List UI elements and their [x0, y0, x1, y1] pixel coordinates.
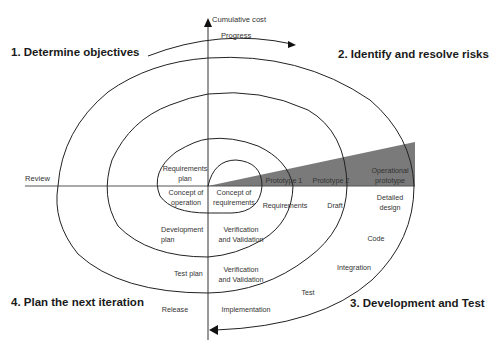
draft-label: Draft	[322, 201, 348, 211]
progress-arc	[148, 38, 292, 56]
integration-label: Integration	[334, 263, 374, 273]
quadrant-4-title: 4. Plan the next iteration	[11, 296, 144, 308]
requirements-label: Requirements	[262, 201, 308, 211]
progress-arrowhead-icon	[288, 41, 296, 48]
quadrant-1-title: 1. Determine objectives	[11, 46, 139, 58]
cumulative-cost-arrowhead-icon	[204, 18, 212, 27]
concept-of-requirements-label: Concept of requirements	[209, 188, 259, 207]
implementation-label: Implementation	[218, 305, 274, 315]
progress-label: Progress	[221, 31, 251, 40]
verification-validation-2-label: Verification and Validation	[213, 265, 269, 284]
prototype-2-label: Prototype 2	[310, 176, 352, 186]
code-label: Code	[362, 234, 390, 244]
development-plan-label: Development plan	[161, 225, 205, 244]
prototype-1-label: Prototype 1	[263, 176, 305, 186]
test-label: Test	[298, 288, 318, 298]
cumulative-cost-label: Cumulative cost	[212, 15, 266, 24]
detailed-design-label: Detailed design	[370, 193, 410, 212]
quadrant-3-title: 3. Development and Test	[350, 297, 485, 309]
concept-of-operation-label: Concept of operation	[163, 188, 209, 207]
verification-validation-1-label: Verification and Validation	[213, 225, 269, 244]
operational-prototype-label: Operational prototype	[365, 166, 415, 185]
test-plan-label: Test plan	[174, 269, 208, 279]
quadrant-2-title: 2. Identify and resolve risks	[338, 48, 489, 60]
spiral-end-arrowhead-icon	[209, 325, 218, 335]
release-label: Release	[160, 305, 190, 315]
requirements-plan-label: Requirements plan	[160, 164, 210, 183]
review-label: Review	[25, 174, 50, 183]
